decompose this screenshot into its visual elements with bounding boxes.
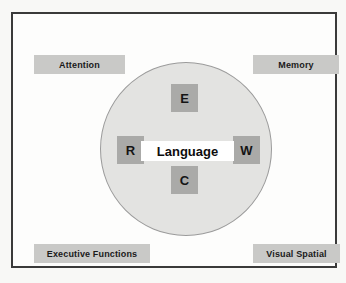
letter-tile-c: C	[171, 166, 198, 194]
letter-tile-w: W	[233, 136, 260, 164]
domain-label-visual-spatial: Visual Spatial	[253, 244, 340, 263]
domain-label-executive-functions: Executive Functions	[34, 244, 150, 263]
letter-tile-r: R	[117, 136, 144, 164]
diagram-canvas: Attention Memory Executive Functions Vis…	[0, 0, 346, 283]
core-label-language: Language	[141, 141, 234, 161]
domain-label-attention: Attention	[34, 55, 125, 74]
domain-label-memory: Memory	[253, 55, 339, 74]
diagram-frame: Attention Memory Executive Functions Vis…	[11, 12, 337, 268]
letter-tile-e: E	[171, 84, 198, 112]
